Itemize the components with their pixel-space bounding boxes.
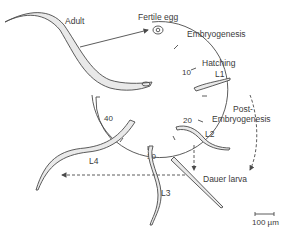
tick-40: 40 [104, 114, 113, 123]
tick-20: 20 [183, 116, 192, 125]
label-dauer-larva: Dauer larva [203, 174, 247, 184]
scale-bar: 100 µm [252, 212, 279, 227]
adult-to-egg-arrow [80, 30, 148, 47]
l2-worm [176, 126, 230, 150]
label-l2: L2 [205, 129, 215, 139]
label-fertile-egg: Fertile egg [138, 12, 178, 22]
label-l3: L3 [161, 188, 171, 198]
label-l1: L1 [215, 69, 225, 79]
scale-bar-label: 100 µm [252, 218, 279, 227]
label-hatching: Hatching [202, 58, 236, 68]
label-embryogenesis: Embryogenesis [187, 29, 246, 39]
label-l4: L4 [89, 156, 99, 166]
l4-worm [36, 120, 135, 190]
fertile-egg-icon [153, 26, 163, 34]
l1-worm [194, 78, 230, 91]
label-adult: Adult [65, 16, 85, 26]
label-post: Post- [233, 104, 253, 114]
clock-tick-marks [120, 45, 207, 150]
tick-10: 10 [182, 68, 191, 77]
label-post-embryogenesis: Embryogenesis [212, 114, 271, 124]
life-cycle-diagram: 10 20 30 40 Adult Fertile egg Embryogene… [0, 0, 288, 235]
